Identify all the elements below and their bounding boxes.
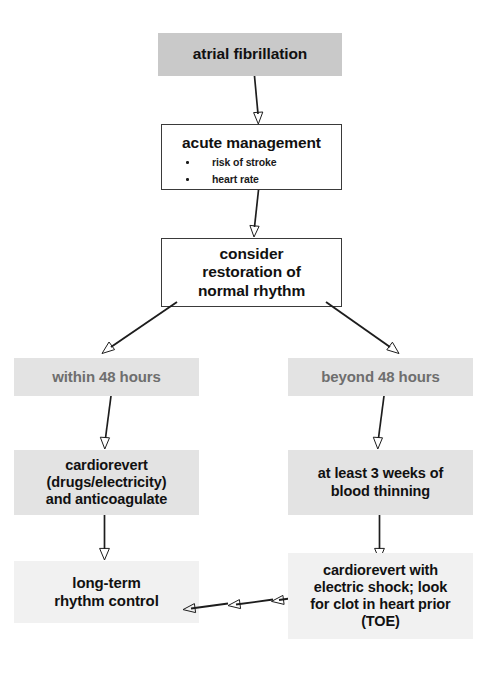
node-cardiorevert-shock: cardiorevert with electric shock; look f…	[288, 553, 473, 639]
connector-cardiorevert-to-longterm	[94, 515, 118, 563]
connector-acute-to-consider	[245, 190, 271, 240]
node-cardiorevert-shock-line-1: cardiorevert with	[323, 562, 438, 579]
node-cardiorevert-drugs: cardiorevert (drugs/electricity) and ant…	[14, 450, 199, 515]
bullet-dot-icon	[186, 161, 189, 164]
node-blood-thinning-line-1: at least 3 weeks of	[318, 465, 443, 482]
node-long-term-rhythm-control-line-2: rhythm control	[54, 592, 158, 610]
bullet-dot-icon	[186, 178, 189, 181]
flowchart-canvas: atrial fibrillation acute management ris…	[0, 0, 502, 694]
connector-beyond48-to-thinning	[368, 396, 394, 452]
node-within-48-hours: within 48 hours	[14, 358, 199, 396]
node-cardiorevert-shock-line-4: (TOE)	[361, 613, 400, 630]
node-blood-thinning-line-2: blood thinning	[331, 483, 430, 500]
node-blood-thinning: at least 3 weeks of blood thinning	[288, 450, 473, 515]
list-item: heart rate	[186, 171, 341, 188]
connector-consider-to-within48	[92, 300, 182, 360]
connector-within48-to-cardiorevert	[95, 396, 121, 452]
node-consider-restoration-line-1: consider	[220, 245, 284, 263]
node-beyond-48-hours: beyond 48 hours	[288, 358, 473, 396]
connector-af-to-acute	[245, 76, 269, 126]
bullet-label: risk of stroke	[212, 156, 277, 168]
node-acute-management: acute management risk of stroke heart ra…	[161, 124, 342, 190]
node-beyond-48-hours-label: beyond 48 hours	[321, 368, 440, 386]
node-cardiorevert-drugs-line-2: (drugs/electricity)	[47, 474, 167, 491]
acute-management-bullet-list: risk of stroke heart rate	[162, 154, 341, 188]
node-acute-management-heading: acute management	[162, 134, 341, 152]
node-consider-restoration-line-3: normal rhythm	[198, 282, 305, 300]
list-item: risk of stroke	[186, 154, 341, 171]
node-within-48-hours-label: within 48 hours	[52, 368, 161, 386]
node-atrial-fibrillation-label: atrial fibrillation	[193, 45, 307, 63]
node-cardiorevert-shock-line-3: for clot in heart prior	[310, 596, 450, 613]
node-long-term-rhythm-control: long-term rhythm control	[14, 561, 199, 623]
node-atrial-fibrillation: atrial fibrillation	[158, 33, 342, 76]
bullet-label: heart rate	[212, 173, 259, 185]
node-consider-restoration: consider restoration of normal rhythm	[161, 238, 342, 307]
connector-consider-to-beyond48	[320, 300, 410, 360]
node-long-term-rhythm-control-line-1: long-term	[72, 574, 140, 592]
node-cardiorevert-drugs-line-3: and anticoagulate	[46, 491, 168, 508]
node-cardiorevert-shock-line-2: electric shock; look	[314, 579, 447, 596]
node-consider-restoration-line-2: restoration of	[202, 263, 301, 281]
node-cardiorevert-drugs-line-1: cardiorevert	[65, 457, 148, 474]
